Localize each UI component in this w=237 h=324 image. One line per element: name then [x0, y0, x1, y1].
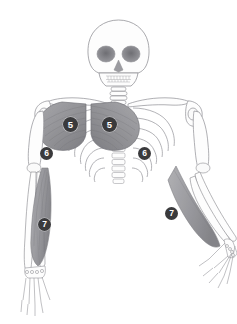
marker-forearm-left[interactable]: 7 [38, 218, 51, 231]
marker-forearm-right[interactable]: 7 [165, 207, 178, 220]
skeleton-diagram-svg [0, 0, 237, 324]
elbow-left [27, 163, 41, 173]
marker-pectoralis-left[interactable]: 5 [63, 117, 78, 132]
anatomical-illustration [0, 0, 237, 324]
humerus-right [193, 111, 209, 169]
eye-orbit-left [97, 46, 115, 62]
marker-pectoralis-right[interactable]: 5 [102, 117, 117, 132]
marker-serratus-left[interactable]: 6 [40, 147, 53, 160]
elbow-right [196, 163, 210, 173]
humerus-left [28, 111, 44, 169]
marker-serratus-right[interactable]: 6 [138, 147, 151, 160]
clavicle-right [128, 98, 190, 107]
hand-left [21, 266, 50, 316]
eye-orbit-right [122, 46, 140, 62]
